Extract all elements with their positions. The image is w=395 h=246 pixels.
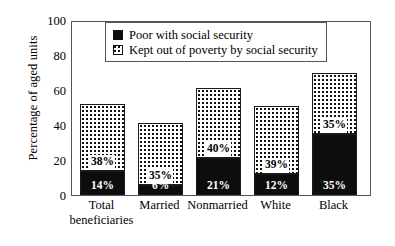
bar-married[interactable]: 35% 6%	[138, 123, 183, 195]
dotted-square-icon	[113, 45, 123, 55]
bar-segment-kept-out-of-poverty[interactable]: 35%	[312, 73, 357, 134]
bar-segment-kept-out-of-poverty[interactable]: 35%	[138, 123, 183, 184]
x-label-line1: Black	[286, 198, 382, 213]
bar-segment-poor[interactable]: 14%	[80, 171, 125, 196]
bar-label-poor: 14%	[91, 179, 114, 194]
bar-segment-kept-out-of-poverty[interactable]: 39%	[254, 106, 299, 174]
bar-label-poor: 35%	[323, 179, 346, 194]
legend-label-kept-out-of-poverty: Kept out of poverty by social security	[129, 43, 318, 57]
legend-entry-kept-out-of-poverty[interactable]: Kept out of poverty by social security	[113, 42, 318, 57]
bar-black[interactable]: 35% 35%	[312, 73, 357, 196]
legend-entry-poor[interactable]: Poor with social security	[113, 27, 318, 42]
y-tick-40: 40	[36, 120, 66, 132]
y-tick-60: 60	[36, 85, 66, 97]
legend-label-poor: Poor with social security	[129, 28, 253, 42]
y-tick-80: 80	[36, 50, 66, 62]
x-axis-tick-labels: Total beneficiaries Married Nonmarried W…	[71, 198, 371, 244]
bar-segment-poor[interactable]: 6%	[138, 185, 183, 196]
bar-label-poor: 6%	[152, 179, 169, 194]
x-label-line2: beneficiaries	[54, 213, 150, 228]
bar-label-kept-out-of-poverty: 40%	[206, 142, 231, 157]
y-tick-100: 100	[36, 15, 66, 27]
bar-total-beneficiaries[interactable]: 38% 14%	[80, 104, 125, 195]
bar-label-kept-out-of-poverty: 39%	[264, 158, 289, 173]
bar-label-poor: 21%	[207, 179, 230, 194]
legend: Poor with social security Kept out of po…	[105, 22, 327, 62]
bar-segment-poor[interactable]: 35%	[312, 134, 357, 195]
bar-segment-poor[interactable]: 21%	[196, 158, 241, 195]
y-tick-20: 20	[36, 155, 66, 167]
bar-segment-poor[interactable]: 12%	[254, 174, 299, 195]
chart-figure: Percentage of aged units 100 80 60 40 20…	[0, 0, 395, 246]
bar-label-kept-out-of-poverty: 35%	[322, 118, 347, 133]
bar-segment-kept-out-of-poverty[interactable]: 38%	[80, 104, 125, 171]
filled-black-square-icon	[113, 30, 123, 40]
bar-label-poor: 12%	[265, 179, 288, 194]
bar-label-kept-out-of-poverty: 38%	[90, 155, 115, 170]
bar-nonmarried[interactable]: 40% 21%	[196, 88, 241, 195]
bar-white[interactable]: 39% 12%	[254, 106, 299, 195]
y-axis-tick-labels: 100 80 60 40 20 0	[36, 21, 66, 196]
x-label-black: Black	[286, 198, 382, 213]
bar-segment-kept-out-of-poverty[interactable]: 40%	[196, 88, 241, 158]
